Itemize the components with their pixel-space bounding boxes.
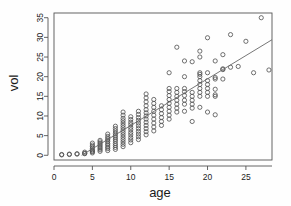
data-point xyxy=(221,53,225,57)
y-axis: 05101520253035 xyxy=(35,13,48,158)
x-tick-label: 0 xyxy=(52,172,57,182)
y-tick-label: 15 xyxy=(35,91,45,101)
x-tick-label: 10 xyxy=(126,172,136,182)
y-tick-label: 30 xyxy=(35,32,45,42)
data-point xyxy=(190,119,194,123)
data-point xyxy=(205,110,209,114)
data-point xyxy=(182,86,186,90)
x-tick-label: 5 xyxy=(90,172,95,182)
x-tick-label: 15 xyxy=(164,172,174,182)
data-point xyxy=(259,16,263,20)
data-point xyxy=(213,87,217,91)
data-point-series xyxy=(60,16,271,157)
x-axis-title: age xyxy=(149,185,171,200)
data-point xyxy=(182,59,186,63)
x-tick-label: 20 xyxy=(203,172,213,182)
scatter-plot-figure: 0510152025 05101520253035 age vol xyxy=(0,0,291,206)
regression-trendline xyxy=(82,40,272,156)
data-point xyxy=(198,49,202,53)
data-point xyxy=(182,75,186,79)
data-point xyxy=(251,71,255,75)
data-point xyxy=(136,109,140,113)
y-tick-label: 5 xyxy=(35,133,45,138)
data-point xyxy=(213,113,217,117)
data-point xyxy=(236,64,240,68)
y-tick-label: 25 xyxy=(35,52,45,62)
data-point xyxy=(205,71,209,75)
y-tick-label: 0 xyxy=(35,153,45,158)
y-tick-label: 35 xyxy=(35,13,45,23)
data-point xyxy=(267,68,271,72)
data-point xyxy=(244,39,248,43)
data-point xyxy=(205,36,209,40)
plot-frame xyxy=(54,13,272,160)
x-axis: 0510152025 xyxy=(52,166,272,182)
y-tick-label: 10 xyxy=(35,111,45,121)
trendline-segment xyxy=(82,40,272,156)
data-point xyxy=(228,33,232,37)
y-axis-title: vol xyxy=(6,75,21,92)
data-point xyxy=(190,60,194,64)
data-point xyxy=(182,109,186,113)
data-point xyxy=(167,86,171,90)
data-point xyxy=(198,105,202,109)
x-tick-label: 25 xyxy=(241,172,251,182)
data-point xyxy=(129,115,133,119)
data-point xyxy=(121,110,125,114)
data-point xyxy=(198,55,202,59)
data-point xyxy=(167,71,171,75)
data-point xyxy=(221,77,225,81)
data-point xyxy=(213,59,217,63)
chart-canvas: 0510152025 05101520253035 age vol xyxy=(0,0,291,206)
data-point xyxy=(175,45,179,49)
y-tick-label: 20 xyxy=(35,72,45,82)
